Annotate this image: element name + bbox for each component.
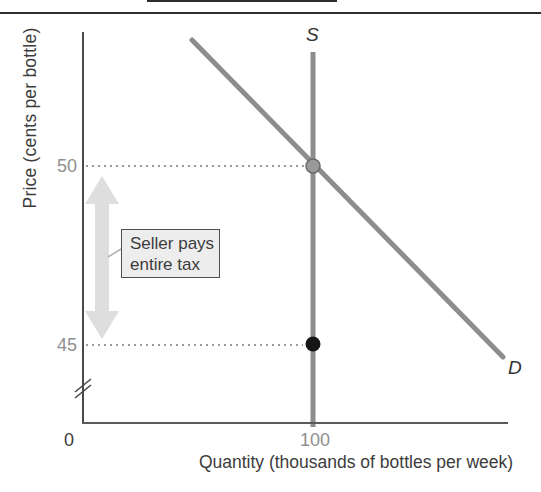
y-tick-50: 50: [48, 156, 77, 177]
x-axis-title: Quantity (thousands of bottles per week): [178, 452, 534, 472]
seller-price-point-marker: [306, 337, 321, 352]
plot-lines: [0, 0, 541, 492]
annotation-connector-line: [108, 249, 121, 257]
y-tick-45: 45: [48, 335, 77, 356]
x-tick-100: 100: [293, 430, 337, 451]
y-axis-title: Price (cents per bottle): [20, 28, 40, 209]
figure-canvas: Price (cents per bottle) 50 45 0 100 Qua…: [0, 0, 541, 492]
supply-curve-label: S: [306, 24, 319, 46]
seller-pays-tax-annotation: Seller pays entire tax: [121, 229, 220, 278]
tax-double-arrow: [85, 176, 119, 339]
equilibrium-point-marker: [306, 159, 320, 173]
annotation-text-line-2: entire tax: [130, 254, 219, 275]
annotation-text-line-1: Seller pays: [130, 233, 219, 254]
demand-curve-label: D: [508, 357, 522, 379]
origin-label: 0: [64, 430, 74, 451]
demand-curve: [192, 40, 503, 357]
